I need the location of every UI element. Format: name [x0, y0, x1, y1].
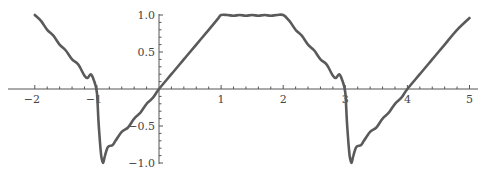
x-tick-label: 2 — [280, 93, 287, 106]
x-tick-label: 5 — [466, 93, 473, 106]
x-tick-label: 1 — [218, 93, 225, 106]
line-chart: −2−1123451.00.5−0.5−1.0 — [0, 0, 499, 177]
y-tick-label: −1.0 — [128, 157, 155, 170]
x-tick-label: 4 — [404, 93, 411, 106]
y-tick-label: 1.0 — [138, 9, 156, 22]
x-tick-label: −2 — [24, 93, 40, 106]
y-tick-label: 0.5 — [138, 46, 156, 59]
x-tick-label: −1 — [86, 93, 102, 106]
